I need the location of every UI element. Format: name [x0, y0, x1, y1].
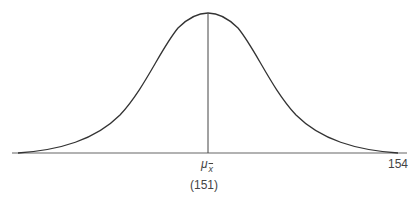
right-tick-label: 154 [388, 158, 408, 170]
mean-value-label: (151) [190, 179, 218, 191]
mu-symbol: μ [201, 157, 208, 171]
mean-symbol-label: μx [201, 158, 212, 170]
x-bar-subscript: x [209, 164, 214, 174]
